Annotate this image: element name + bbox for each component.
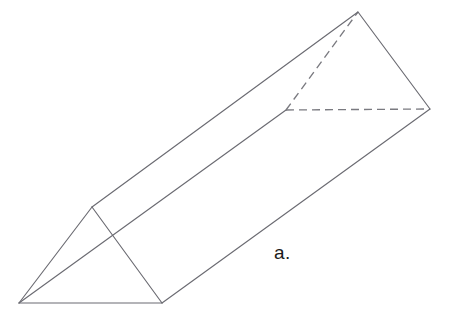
figure-canvas: a.: [0, 0, 449, 335]
face-top-slant: [92, 12, 430, 303]
figure-label: a.: [274, 243, 291, 262]
triangular-prism-drawing: [0, 0, 449, 335]
